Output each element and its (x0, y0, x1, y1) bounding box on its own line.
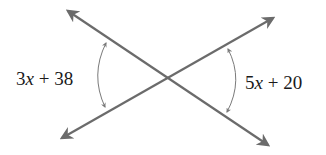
right-angle-label: 5x + 20 (245, 73, 302, 92)
left-angle-arc (98, 43, 106, 107)
left-angle-label: 3x + 38 (16, 69, 73, 88)
left-angle-constant: + 38 (34, 68, 73, 89)
left-angle-coefficient: 3 (16, 68, 26, 89)
line-ascending (62, 18, 273, 138)
right-angle-arc (227, 49, 236, 112)
right-angle-constant: + 20 (263, 72, 302, 93)
left-angle-variable: x (26, 68, 34, 89)
right-angle-coefficient: 5 (245, 72, 255, 93)
right-angle-variable: x (255, 72, 263, 93)
